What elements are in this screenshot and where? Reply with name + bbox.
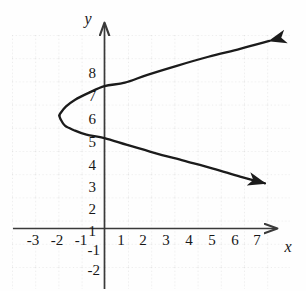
y-tick-label-6: 6 — [89, 111, 97, 127]
x-tick-label-1: 1 — [117, 232, 125, 248]
y-tick-label-neg2: -2 — [88, 262, 101, 278]
x-tick-label-2: 2 — [139, 232, 147, 248]
y-axis-label: y — [82, 10, 92, 28]
x-tick-label-neg2: -2 — [51, 232, 64, 248]
x-tick-label-neg1: -1 — [75, 232, 88, 248]
x-tick-label-6: 6 — [231, 232, 239, 248]
y-tick-label-2: 2 — [89, 201, 97, 217]
y-tick-label-8: 8 — [89, 65, 97, 81]
x-tick-label-7: 7 — [253, 232, 261, 248]
y-tick-label-1: 1 — [89, 223, 97, 239]
y-tick-label-4: 4 — [89, 157, 97, 173]
x-tick-label-5: 5 — [208, 232, 216, 248]
y-tick-label-3: 3 — [89, 179, 97, 195]
x-tick-label-neg3: -3 — [27, 232, 40, 248]
coordinate-plot: x y -3 -2 -1 1 2 3 4 5 6 7 8 7 6 5 4 3 2… — [0, 0, 306, 291]
x-tick-label-4: 4 — [185, 232, 193, 248]
graph-figure: x y -3 -2 -1 1 2 3 4 5 6 7 8 7 6 5 4 3 2… — [0, 0, 306, 291]
x-tick-label-3: 3 — [162, 232, 170, 248]
x-axis-label: x — [283, 238, 291, 255]
y-tick-label-neg1: -1 — [88, 242, 101, 258]
